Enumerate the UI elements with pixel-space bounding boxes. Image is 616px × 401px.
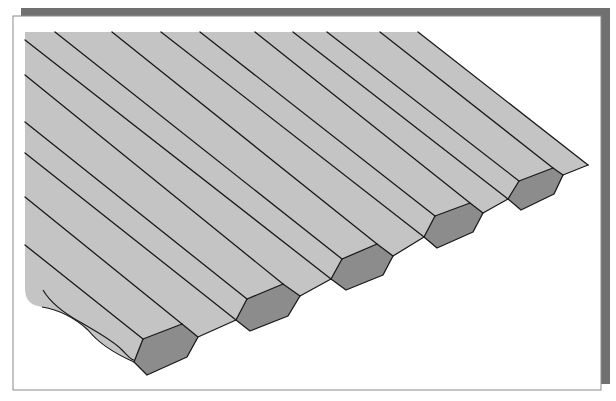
hexagonal-prisms-diagram (0, 0, 616, 401)
